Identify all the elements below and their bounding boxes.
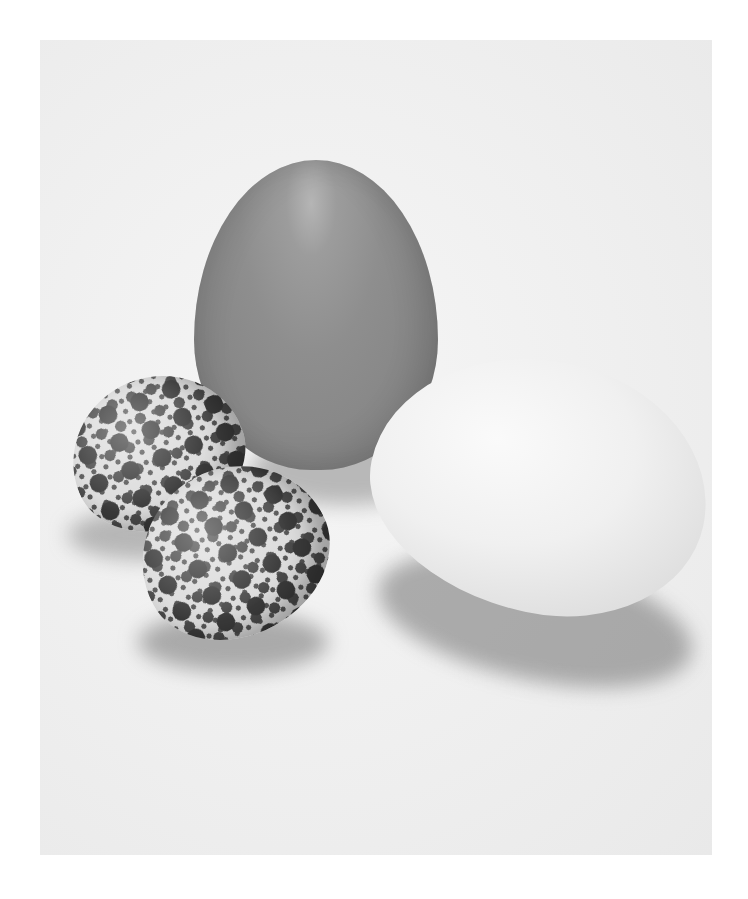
egg-photograph — [40, 40, 712, 855]
